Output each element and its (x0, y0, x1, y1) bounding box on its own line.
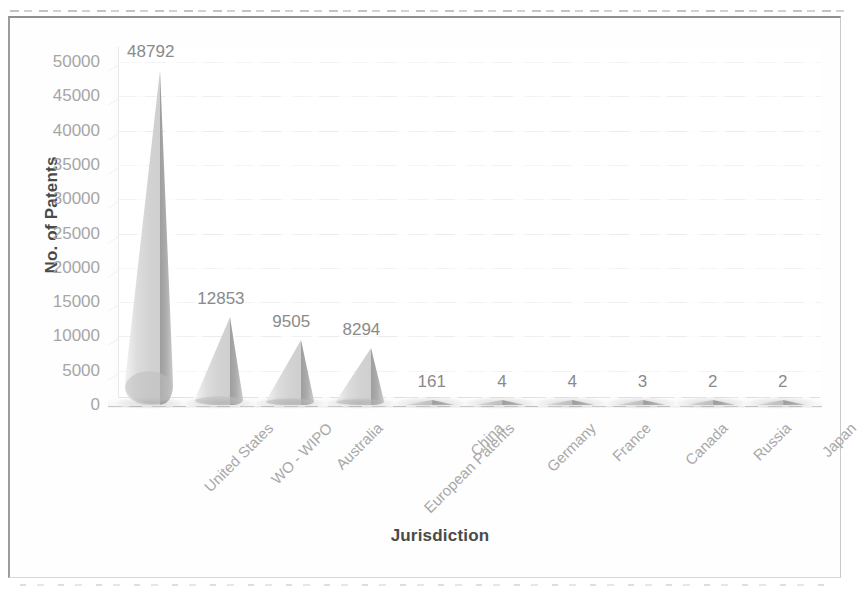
x-axis-tick-label: France (610, 420, 654, 464)
cone-bar (616, 400, 666, 405)
cone-shadow (256, 397, 324, 409)
x-axis-tick-label: Canada (682, 420, 730, 468)
y-axis-tick-label: 20000 (30, 259, 100, 276)
cone-shadow (185, 397, 253, 409)
cone-bar (194, 317, 244, 405)
cone-shape (265, 340, 315, 405)
y-axis-tick-label: 25000 (30, 225, 100, 242)
data-label: 3 (638, 373, 647, 390)
gridline (119, 268, 821, 269)
x-axis-tick-label: Australia (333, 420, 385, 472)
y-axis-tick-label: 5000 (30, 362, 100, 379)
y-axis-tick-label: 50000 (30, 53, 100, 70)
cone-shadow (677, 397, 745, 409)
x-axis-tick-label: Russia (750, 420, 793, 463)
cone-bar (335, 348, 385, 405)
data-label: 12853 (197, 290, 244, 307)
gridline (119, 199, 821, 200)
gridline (119, 165, 821, 166)
cone-bar (124, 70, 174, 405)
x-axis-title: Jurisdiction (340, 526, 540, 546)
cone-bar (265, 340, 315, 405)
gridline (119, 234, 821, 235)
data-label: 161 (418, 373, 446, 390)
data-label: 2 (778, 373, 787, 390)
cone-shadow (607, 397, 675, 409)
x-axis-tick-label: Germany (544, 420, 598, 474)
y-axis-tick-labels: 5000045000400003500030000250002000015000… (30, 0, 100, 597)
y-axis-tick-label: 40000 (30, 122, 100, 139)
cone-shadow (326, 397, 394, 409)
data-label: 4 (568, 373, 577, 390)
cone-bar (545, 400, 595, 405)
gridline (119, 131, 821, 132)
cone-bar (686, 400, 736, 405)
y-axis-tick-label: 10000 (30, 327, 100, 344)
cone-shape (124, 70, 174, 405)
y-axis-tick-label: 0 (30, 396, 100, 413)
y-axis-tick-label: 15000 (30, 293, 100, 310)
y-axis-tick-label: 30000 (30, 190, 100, 207)
data-label: 8294 (343, 321, 381, 338)
cone-shadow (536, 397, 604, 409)
x-axis-tick-label: United States (201, 420, 275, 494)
data-label: 48792 (127, 43, 174, 60)
cone-shadow (466, 397, 534, 409)
gridline (119, 62, 821, 63)
cone-shadow (115, 397, 183, 409)
y-axis-tick-label: 35000 (30, 156, 100, 173)
x-axis-tick-label: Japan (819, 420, 859, 460)
y-axis-tick-label: 45000 (30, 87, 100, 104)
cone-shadow (747, 397, 815, 409)
data-label: 4 (497, 373, 506, 390)
data-label: 9505 (272, 313, 310, 330)
cone-bar (756, 400, 806, 405)
data-label: 2 (708, 373, 717, 390)
gridline (119, 96, 821, 97)
x-axis-tick-label: WO - WIPO (268, 420, 335, 487)
cone-shadow (396, 397, 464, 409)
cone-bar (475, 400, 525, 405)
cone-shape (194, 317, 244, 405)
cone-bar (405, 400, 455, 405)
